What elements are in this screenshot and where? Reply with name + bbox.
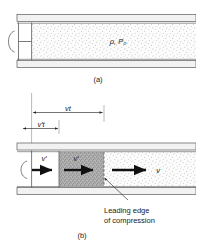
- label-piston-velocity: v′: [41, 154, 47, 163]
- annotation-line-1: Leading edge: [104, 206, 149, 215]
- panel-b-label: (b): [77, 231, 87, 240]
- tube-bottom-wall-a: [17, 61, 196, 68]
- panel-b-group: v′ v′ v Leading edge of compression (b): [17, 143, 196, 240]
- annotation-line-2: of compression: [104, 216, 155, 225]
- c-handle-icon-b: [21, 161, 27, 179]
- tube-top-wall-b: [17, 143, 196, 150]
- panel-a-group: ρ, P₀ (a): [9, 15, 197, 85]
- figure-canvas: ρ, P₀ (a) vt v′t: [0, 0, 196, 249]
- tube-top-wall-a: [17, 15, 196, 22]
- c-handle-icon: [9, 31, 15, 52]
- dim-label-vt: vt: [65, 104, 72, 113]
- gas-density-pressure-label: ρ, P₀: [109, 37, 127, 46]
- label-compressed-velocity: v′: [73, 154, 79, 163]
- panel-a-label: (a): [93, 75, 103, 84]
- tube-bottom-wall-b: [17, 188, 196, 195]
- dim-label-vpt: v′t: [37, 120, 45, 129]
- physics-figure-sound-compression: ρ, P₀ (a) vt v′t: [0, 0, 196, 249]
